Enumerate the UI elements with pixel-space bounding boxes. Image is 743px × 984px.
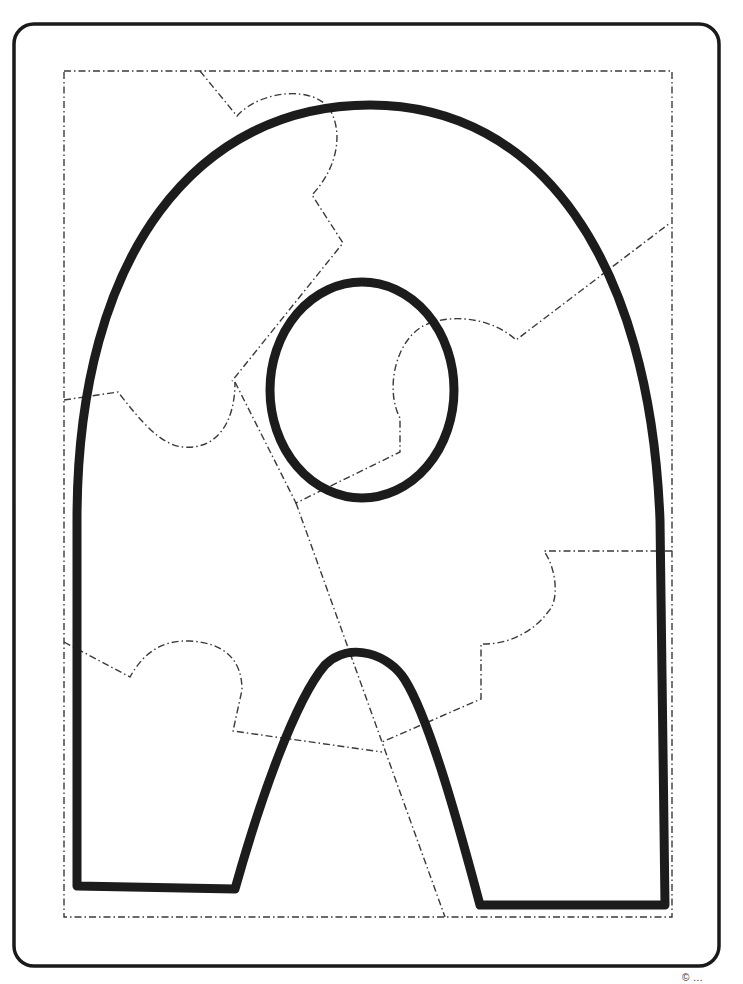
letter-a-outer-outline (77, 105, 665, 905)
letter-a-shape (77, 105, 665, 905)
puzzle-worksheet (0, 0, 743, 984)
footer-credit: © ... (682, 972, 703, 984)
letter-a-counter-hole (270, 282, 454, 498)
cut-line-top (200, 71, 343, 381)
